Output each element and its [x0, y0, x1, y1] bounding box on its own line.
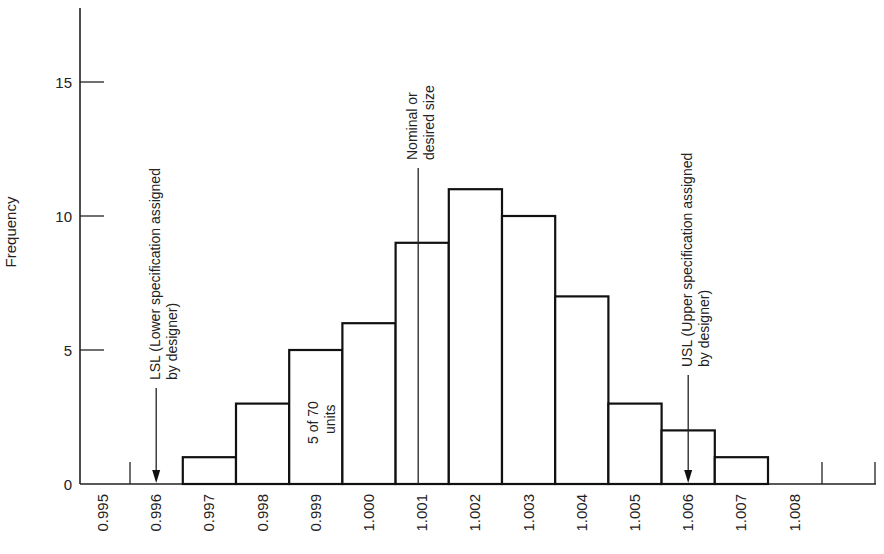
usl-label-line2: by designer) — [696, 290, 712, 367]
histogram-bar — [715, 457, 768, 484]
x-tick-label: 1.002 — [466, 494, 483, 532]
x-tick-label: 1.006 — [679, 494, 696, 532]
histogram-bar — [236, 404, 289, 484]
bar-note-label-line2: units — [322, 404, 338, 434]
y-tick-label: 5 — [64, 342, 72, 359]
arrow-down-icon — [152, 470, 160, 483]
histogram-bar — [396, 243, 449, 484]
x-tick-label: 0.995 — [94, 494, 111, 532]
y-tick-label: 10 — [55, 208, 72, 225]
usl-label: USL (Upper specification assigned — [679, 153, 695, 367]
bar-note-label: 5 of 70 — [305, 401, 321, 444]
histogram-bar — [183, 457, 236, 484]
x-tick-label: 0.997 — [200, 494, 217, 532]
nominal-label: Nominal or — [404, 92, 420, 160]
histogram-bar — [342, 323, 395, 484]
histogram-bar — [502, 216, 555, 484]
histogram-chart: 051015Frequency0.9950.9960.9970.9980.999… — [0, 0, 884, 554]
x-tick-label: 1.000 — [360, 494, 377, 532]
x-tick-label: 1.004 — [573, 494, 590, 532]
x-tick-label: 0.999 — [307, 494, 324, 532]
y-tick-label: 0 — [64, 476, 72, 493]
x-tick-label: 1.005 — [626, 494, 643, 532]
x-tick-label: 1.007 — [732, 494, 749, 532]
histogram-bar — [449, 189, 502, 484]
y-axis-label: Frequency — [2, 196, 19, 267]
x-tick-label: 0.996 — [147, 494, 164, 532]
y-tick-label: 15 — [55, 74, 72, 91]
histogram-bar — [608, 404, 661, 484]
x-tick-label: 1.008 — [786, 494, 803, 532]
lsl-label-line2: by designer) — [164, 303, 180, 380]
x-tick-label: 1.001 — [413, 494, 430, 532]
x-tick-label: 0.998 — [254, 494, 271, 532]
lsl-label: LSL (Lower specification assigned — [147, 168, 163, 380]
x-tick-label: 1.003 — [520, 494, 537, 532]
histogram-bar — [555, 296, 608, 484]
nominal-label-line2: desired size — [421, 85, 437, 160]
